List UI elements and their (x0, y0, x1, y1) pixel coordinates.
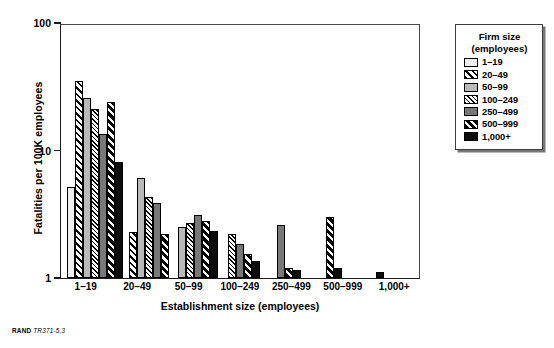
bar-group (61, 25, 123, 278)
y-axis-tick-mark (54, 150, 61, 152)
x-axis-tick-label: 500–999 (317, 281, 368, 292)
bar (236, 244, 244, 278)
legend-label: 1,000+ (482, 132, 511, 142)
bar-group (222, 25, 271, 278)
legend-swatch (464, 58, 478, 67)
y-axis-tick-label: 100 (33, 17, 51, 29)
bar (210, 231, 218, 278)
bar-group (271, 25, 320, 278)
bar (83, 98, 91, 278)
legend-label: 250–499 (482, 107, 518, 117)
legend-label: 100–249 (482, 95, 518, 105)
bar (326, 217, 334, 278)
legend-swatch (464, 83, 478, 92)
legend-label: 20–49 (482, 70, 508, 80)
bar (115, 162, 123, 279)
x-axis-tick-label: 100–249 (214, 281, 265, 292)
bar (129, 232, 137, 278)
legend-label: 1–19 (482, 57, 503, 67)
legend-swatch (464, 107, 478, 116)
bar (67, 187, 75, 278)
y-axis-tick-label: 10 (39, 145, 51, 157)
plot-area: 110100 (60, 24, 420, 279)
legend-swatch (464, 95, 478, 104)
bar (285, 268, 293, 278)
bar (228, 234, 236, 278)
bar (252, 261, 260, 278)
legend-item: 250–499 (464, 107, 535, 117)
bar (91, 109, 99, 278)
bar (107, 102, 115, 278)
bar (334, 268, 342, 278)
legend-label: 500–999 (482, 119, 518, 129)
legend-item: 500–999 (464, 119, 535, 129)
bar-group (370, 25, 419, 278)
bar-groups (61, 25, 419, 278)
legend-swatch (464, 120, 478, 129)
x-axis-tick-label: 250–499 (266, 281, 317, 292)
bar (293, 270, 301, 278)
bar (194, 215, 202, 278)
plot-inner: 110100 (61, 25, 419, 278)
bar (277, 225, 285, 278)
chart-legend: Firm size (employees) 1–1920–4950–99100–… (455, 24, 543, 150)
bar (186, 223, 194, 278)
bar-group (123, 25, 172, 278)
x-axis-title: Establishment size (employees) (60, 300, 420, 312)
legend-item: 1,000+ (464, 132, 535, 142)
bar (75, 81, 83, 278)
legend-item: 1–19 (464, 57, 535, 67)
x-axis-tick-label: 20–49 (111, 281, 162, 292)
bar (202, 221, 210, 278)
legend-item: 100–249 (464, 95, 535, 105)
legend-item: 50–99 (464, 82, 535, 92)
bar (161, 234, 169, 278)
chart-figure: Fatalities per 100K employees 110100 1–1… (0, 0, 554, 348)
caption-code: TR371-5.3 (33, 327, 65, 334)
legend-swatch (464, 70, 478, 79)
y-axis-tick-label: 1 (45, 272, 51, 284)
x-axis-tick-labels: 1–1920–4950–99100–249250–499500–9991,000… (60, 281, 420, 292)
bar (99, 134, 107, 278)
bar (137, 178, 145, 278)
x-axis-tick-label: 1–19 (60, 281, 111, 292)
legend-item: 20–49 (464, 70, 535, 80)
bar (153, 203, 161, 278)
legend-swatch (464, 132, 478, 141)
caption-brand: RAND (12, 327, 31, 334)
y-axis-tick-mark (54, 277, 61, 279)
y-axis-title: Fatalities per 100K employees (32, 28, 44, 288)
x-axis-tick-label: 1,000+ (369, 281, 420, 292)
y-axis-tick-mark (54, 22, 61, 24)
bar (145, 197, 153, 278)
bar (178, 227, 186, 278)
bar-group (320, 25, 369, 278)
bar (244, 254, 252, 278)
bar (376, 272, 384, 278)
legend-title-line2: (employees) (464, 43, 535, 55)
legend-label: 50–99 (482, 82, 508, 92)
x-axis-tick-label: 50–99 (163, 281, 214, 292)
legend-entries: 1–1920–4950–99100–249250–499500–9991,000… (464, 57, 535, 141)
legend-title-line1: Firm size (464, 31, 535, 43)
bar-group (172, 25, 221, 278)
figure-caption: RANDTR371-5.3 (12, 327, 65, 334)
